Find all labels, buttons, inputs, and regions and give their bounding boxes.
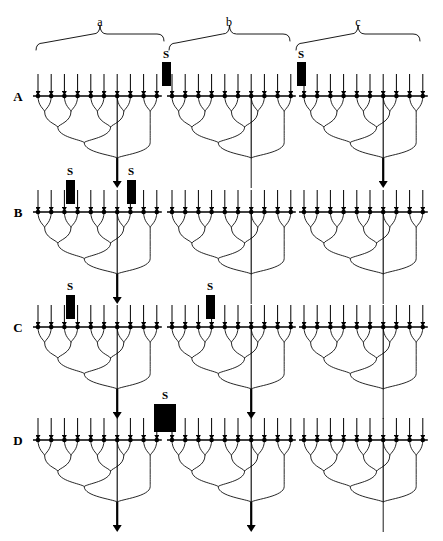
- branch-level-2: [192, 228, 205, 244]
- row-label-D: D: [13, 433, 22, 448]
- branch-level-1: [330, 327, 337, 343]
- branch-level-2: [45, 228, 58, 244]
- branch-level-1: [150, 96, 157, 112]
- branch-level-1: [205, 212, 212, 228]
- branch-level-1: [150, 327, 157, 343]
- branch-level-1: [251, 440, 258, 456]
- branch-level-1: [179, 327, 186, 343]
- branch-level-2: [179, 343, 192, 359]
- branch-level-1: [144, 212, 151, 228]
- branch-level-1: [179, 440, 186, 456]
- branch-level-4: [218, 259, 251, 275]
- branch-level-1: [390, 327, 397, 343]
- row-D: DS: [13, 389, 427, 532]
- branch-level-1: [284, 327, 291, 343]
- branch-level-2: [179, 112, 192, 128]
- branch-level-4: [117, 487, 150, 503]
- branch-level-2: [324, 456, 337, 472]
- stimulus-bar: [206, 295, 215, 319]
- stimulus-label: S: [163, 48, 169, 60]
- branch-level-3: [84, 127, 110, 143]
- branch-level-2: [324, 343, 337, 359]
- branch-level-3: [58, 243, 84, 259]
- branch-level-1: [150, 212, 157, 228]
- branch-level-1: [251, 96, 258, 112]
- branch-level-1: [258, 96, 265, 112]
- branch-level-1: [416, 96, 423, 112]
- stimulus-C-2: S: [206, 280, 215, 319]
- branch-level-2: [58, 456, 71, 472]
- branch-level-2: [97, 456, 110, 472]
- branch-level-1: [64, 327, 71, 343]
- tree-C-b: [167, 305, 296, 412]
- branch-level-1: [357, 327, 364, 343]
- branch-level-1: [198, 212, 205, 228]
- branch-level-1: [97, 327, 104, 343]
- branch-level-1: [284, 96, 291, 112]
- branch-level-1: [383, 440, 390, 456]
- branch-level-1: [357, 212, 364, 228]
- branch-level-2: [45, 456, 58, 472]
- branch-level-1: [144, 96, 151, 112]
- branch-level-1: [383, 327, 390, 343]
- branch-level-1: [330, 96, 337, 112]
- branch-level-4: [350, 143, 383, 159]
- branch-level-3: [218, 358, 244, 374]
- stimulus-bar: [297, 62, 306, 86]
- branch-level-1: [304, 96, 311, 112]
- branch-level-1: [71, 212, 78, 228]
- branch-level-1: [198, 96, 205, 112]
- branch-level-1: [225, 327, 232, 343]
- branch-level-1: [64, 440, 71, 456]
- branch-level-1: [357, 96, 364, 112]
- branch-level-1: [124, 327, 131, 343]
- branch-level-2: [192, 112, 205, 128]
- stimulus-label: S: [67, 165, 73, 177]
- branch-level-1: [144, 440, 151, 456]
- branch-level-2: [97, 343, 110, 359]
- branch-level-3: [84, 358, 110, 374]
- branch-level-1: [410, 440, 417, 456]
- branch-level-3: [192, 243, 218, 259]
- branch-level-1: [383, 96, 390, 112]
- branch-level-1: [172, 440, 179, 456]
- branch-level-1: [304, 440, 311, 456]
- branch-level-1: [251, 212, 258, 228]
- branch-level-1: [117, 212, 124, 228]
- branch-level-3: [350, 471, 376, 487]
- stimulus-bar: [127, 180, 136, 204]
- branch-level-2: [363, 228, 376, 244]
- row-label-C: C: [13, 320, 22, 335]
- row-C: CSS: [13, 280, 427, 419]
- branch-level-2: [311, 343, 324, 359]
- stimulus-bar: [154, 404, 176, 432]
- stimulus-B-1: S: [66, 165, 75, 204]
- branch-level-1: [278, 327, 285, 343]
- branch-level-1: [117, 327, 124, 343]
- branch-level-1: [205, 327, 212, 343]
- row-label-B: B: [14, 205, 23, 220]
- branch-level-2: [231, 228, 244, 244]
- branch-level-1: [231, 96, 238, 112]
- branch-level-4: [383, 487, 416, 503]
- branch-level-1: [410, 96, 417, 112]
- branch-level-1: [304, 327, 311, 343]
- branch-level-1: [45, 440, 52, 456]
- tree-C-a: [33, 305, 162, 412]
- branch-level-3: [84, 471, 110, 487]
- branch-level-1: [97, 440, 104, 456]
- branch-level-2: [324, 112, 337, 128]
- branch-level-4: [350, 487, 383, 503]
- branch-level-3: [58, 127, 84, 143]
- branch-level-1: [337, 96, 344, 112]
- branch-level-1: [390, 96, 397, 112]
- branch-level-3: [350, 127, 376, 143]
- branch-level-1: [91, 212, 98, 228]
- branch-level-4: [117, 374, 150, 390]
- branch-level-1: [278, 212, 285, 228]
- branch-level-1: [124, 212, 131, 228]
- tree-B-c: [299, 190, 428, 304]
- branch-level-1: [363, 96, 370, 112]
- branch-level-2: [192, 456, 205, 472]
- brace-a: a: [36, 15, 164, 50]
